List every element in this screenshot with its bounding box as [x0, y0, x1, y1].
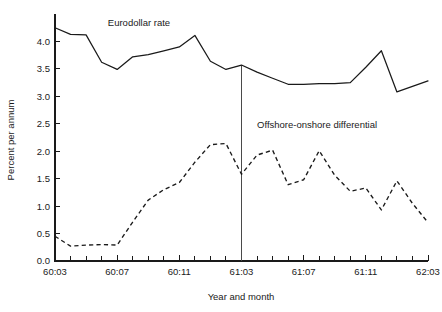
y-tick-label: 0.5 [37, 228, 50, 239]
y-axis-ticks: 0.00.51.01.52.02.53.03.54.0 [37, 36, 60, 267]
series-annotation-label: Offshore-onshore differential [257, 119, 377, 130]
y-tick-label: 1.5 [37, 173, 50, 184]
y-tick-label: 3.5 [37, 63, 50, 74]
x-tick-label: 61:07 [292, 266, 316, 277]
y-tick-label: 2.5 [37, 118, 50, 129]
chart-container: 0.00.51.01.52.02.53.03.54.0 60:0360:0760… [0, 0, 442, 312]
x-axis-title: Year and month [208, 291, 275, 302]
x-tick-label: 60:07 [105, 266, 129, 277]
x-tick-label: 62:03 [416, 266, 440, 277]
y-tick-label: 2.0 [37, 146, 50, 157]
y-tick-label: 3.0 [37, 91, 50, 102]
x-tick-label: 60:03 [43, 266, 67, 277]
series-annotation-label: Eurodollar rate [108, 17, 170, 28]
x-tick-label: 61:11 [354, 266, 377, 277]
series-annotations: Eurodollar rateOffshore-onshore differen… [108, 17, 377, 130]
y-tick-label: 1.0 [37, 201, 50, 212]
line-chart: 0.00.51.01.52.02.53.03.54.0 60:0360:0760… [0, 0, 442, 312]
y-axis-title: Percent per annum [5, 100, 16, 181]
y-tick-label: 4.0 [37, 36, 50, 47]
x-tick-label: 60:11 [168, 266, 191, 277]
x-tick-label: 61:03 [230, 266, 254, 277]
y-tick-label: 0.0 [37, 255, 50, 266]
